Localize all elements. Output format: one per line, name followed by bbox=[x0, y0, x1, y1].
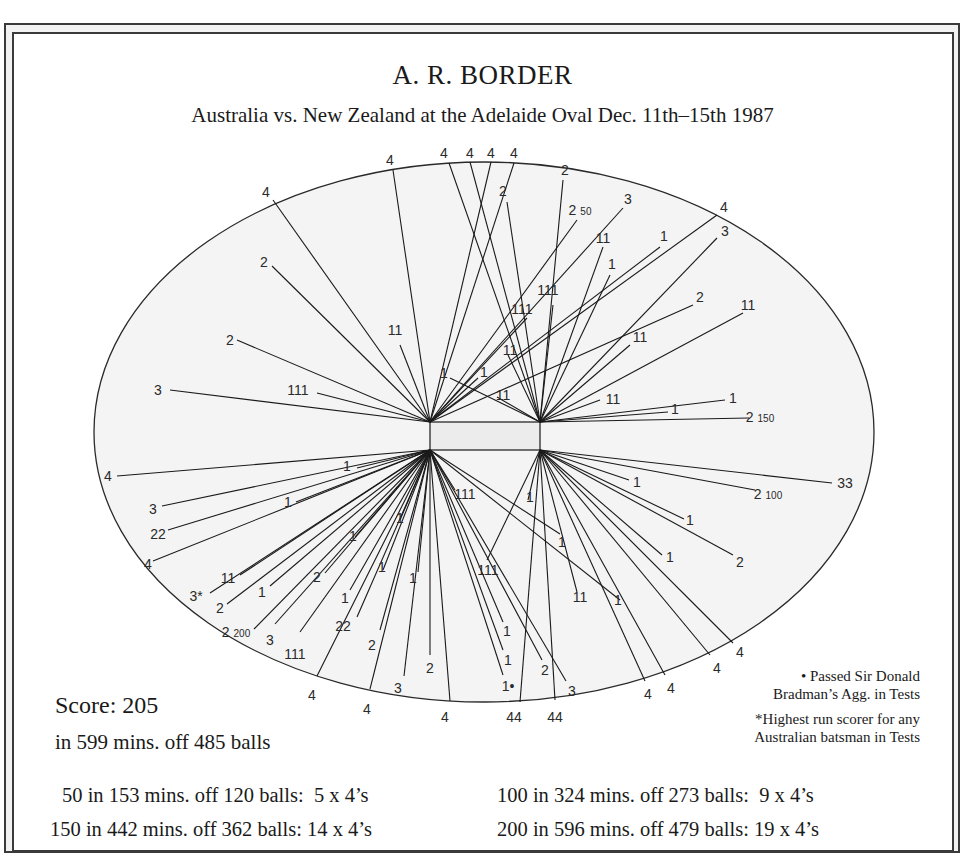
shot-label: 111 bbox=[284, 646, 305, 662]
shot-label: 2 bbox=[216, 600, 224, 616]
shot-label: 4 bbox=[466, 145, 474, 161]
shot-label: 3 bbox=[721, 223, 729, 239]
shot-label: 11 bbox=[573, 589, 588, 605]
shot-label: 4 bbox=[440, 145, 448, 161]
shot-label: 1 bbox=[349, 528, 357, 544]
shot-label: 11 bbox=[503, 342, 518, 358]
milestone-50: 50 in 153 mins. off 120 balls: 5 x 4’s bbox=[62, 784, 369, 807]
shot-label: 4 bbox=[386, 152, 394, 168]
shot-label: 22 bbox=[150, 526, 166, 542]
shot-label: 11 bbox=[221, 570, 236, 586]
shot-label: 111 bbox=[287, 382, 308, 398]
score-detail: in 599 mins. off 485 balls bbox=[55, 730, 270, 755]
shot-label: 1 bbox=[633, 474, 641, 490]
shot-label: 1 bbox=[558, 534, 566, 550]
shot-label: 2 bbox=[226, 332, 234, 348]
shot-label: 44 bbox=[506, 709, 522, 725]
shot-label: 4 bbox=[713, 660, 721, 676]
shot-label: 1 bbox=[343, 458, 351, 474]
bradman-note: • Passed Sir Donald Bradman’s Agg. in Te… bbox=[773, 667, 920, 703]
shot-label: 11 bbox=[388, 322, 403, 338]
shot-label: 11 bbox=[496, 387, 511, 403]
highest-scorer-note: *Highest run scorer for any Australian b… bbox=[754, 710, 920, 746]
shot-label: 22 bbox=[335, 618, 351, 634]
milestone-150: 150 in 442 mins. off 362 balls: 14 x 4’s bbox=[50, 818, 372, 841]
shot-label: 3 bbox=[154, 382, 162, 398]
shot-label: 4 bbox=[441, 709, 449, 725]
shot-label: 1 bbox=[378, 559, 386, 575]
shot-label: 1 bbox=[284, 494, 292, 510]
pitch-rectangle bbox=[430, 422, 540, 450]
shot-label: 1 bbox=[503, 623, 511, 639]
shot-label: 4 bbox=[262, 184, 270, 200]
shot-label: 111 bbox=[537, 282, 558, 298]
shot-label: 1 bbox=[671, 401, 679, 417]
shot-label: 44 bbox=[547, 709, 563, 725]
shot-label: 3 bbox=[149, 501, 157, 517]
score-total: Score: 205 bbox=[55, 692, 158, 719]
shot-label: 2 bbox=[260, 254, 268, 270]
shot-label: 1 bbox=[686, 512, 694, 528]
highest-scorer-note-line1: *Highest run scorer for any bbox=[754, 710, 920, 728]
shot-label: 2 bbox=[541, 662, 549, 678]
shot-label: 1 bbox=[440, 365, 448, 381]
highest-scorer-note-line2: Australian batsman in Tests bbox=[754, 728, 920, 746]
shot-label: 2 bbox=[499, 183, 507, 199]
bradman-note-line2: Bradman’s Agg. in Tests bbox=[773, 685, 920, 703]
shot-label: 2 bbox=[736, 554, 744, 570]
shot-label: 111 bbox=[477, 562, 498, 578]
milestone-200: 200 in 596 mins. off 479 balls: 19 x 4’s bbox=[497, 818, 819, 841]
shot-label: 4 bbox=[104, 468, 112, 484]
shot-label: 4 bbox=[667, 680, 675, 696]
shot-label: 2 bbox=[561, 162, 569, 178]
shot-label: 111 bbox=[454, 486, 475, 502]
shot-label: 11 bbox=[606, 391, 621, 407]
shot-label: 1 bbox=[660, 228, 668, 244]
shot-label: 1 bbox=[409, 570, 417, 586]
bradman-note-line1: • Passed Sir Donald bbox=[773, 667, 920, 685]
shot-label: 4 bbox=[144, 556, 152, 572]
shot-label: 1• bbox=[502, 678, 515, 694]
shot-label: 11 bbox=[596, 230, 611, 246]
shot-label: 4 bbox=[510, 145, 518, 161]
shot-label: 11 bbox=[633, 329, 648, 345]
shot-label: 4 bbox=[363, 701, 371, 717]
shot-label: 3 bbox=[394, 680, 402, 696]
shot-label: 2 bbox=[426, 660, 434, 676]
shot-label: 2 bbox=[313, 569, 321, 585]
shot-label: 1 bbox=[258, 584, 266, 600]
shot-label: 1 bbox=[341, 590, 349, 606]
shot-label: 1 bbox=[608, 256, 616, 272]
shot-label: 111 bbox=[511, 301, 532, 317]
shot-label: 2 bbox=[696, 289, 704, 305]
shot-label: 1 bbox=[614, 592, 622, 608]
shot-label: 11 bbox=[741, 297, 756, 313]
shot-label: 1 bbox=[729, 390, 737, 406]
shot-label: 1 bbox=[480, 364, 488, 380]
shot-label: 3* bbox=[189, 588, 203, 604]
shot-label: 4 bbox=[644, 686, 652, 702]
shot-label: 4 bbox=[720, 199, 728, 215]
shot-label: 2 bbox=[368, 637, 376, 653]
shot-label: 3 bbox=[624, 191, 632, 207]
shot-label: 33 bbox=[837, 475, 853, 491]
shot-label: 1 bbox=[396, 510, 404, 526]
shot-label: 4 bbox=[487, 145, 495, 161]
shot-label: 1 bbox=[504, 652, 512, 668]
shot-label: 1 bbox=[526, 489, 534, 505]
shot-label: 4 bbox=[308, 687, 316, 703]
shot-label: 3 bbox=[266, 632, 274, 648]
shot-label: 3 bbox=[568, 683, 576, 699]
milestone-100: 100 in 324 mins. off 273 balls: 9 x 4’s bbox=[497, 784, 814, 807]
shot-label: 1 bbox=[666, 549, 674, 565]
shot-label: 4 bbox=[736, 644, 744, 660]
